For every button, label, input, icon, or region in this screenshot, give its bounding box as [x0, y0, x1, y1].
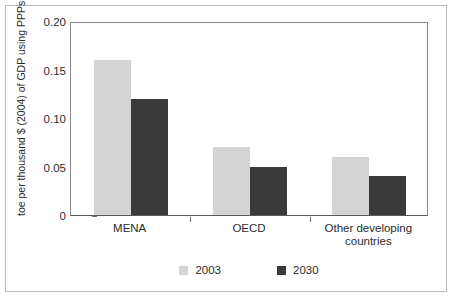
- bar-other-developing-countries-2030: [369, 176, 406, 215]
- y-axis-tick-label: 0.20: [26, 16, 66, 28]
- y-axis-tick-label: 0.15: [26, 65, 66, 77]
- bar-other-developing-countries-2003: [332, 157, 369, 215]
- legend-label: 2003: [195, 264, 221, 276]
- y-axis-tick-mark: [92, 216, 97, 217]
- chart-figure: 0.200.150.100.050 toe per thousand $ (20…: [0, 0, 453, 298]
- x-axis-category-label: OECD: [189, 222, 308, 235]
- y-axis-tick-label: 0.05: [26, 162, 66, 174]
- bar-mena-2003: [94, 60, 131, 215]
- y-axis-tick-label: 0: [26, 210, 66, 222]
- bar-oecd-2003: [213, 147, 250, 215]
- legend-swatch-icon: [179, 266, 188, 275]
- legend-item-2003[interactable]: 2003: [179, 264, 221, 276]
- plot-area: [70, 22, 428, 216]
- y-axis-tick-label: 0.10: [26, 113, 66, 125]
- legend-swatch-icon: [277, 266, 286, 275]
- chart-legend: 20032030: [70, 262, 428, 278]
- legend-item-2030[interactable]: 2030: [277, 264, 319, 276]
- y-axis-ticks: 0.200.150.100.050: [22, 22, 66, 216]
- x-axis-category-label: MENA: [70, 222, 189, 235]
- bar-mena-2030: [131, 99, 168, 215]
- bar-oecd-2030: [250, 167, 287, 216]
- x-axis-category-label: Other developingcountries: [309, 222, 428, 248]
- y-axis-title: toe per thousand $ (2004) of GDP using P…: [14, 22, 28, 216]
- legend-label: 2030: [293, 264, 319, 276]
